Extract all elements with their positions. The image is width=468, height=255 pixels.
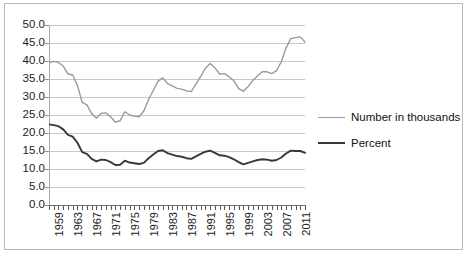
x-tick-mark bbox=[191, 206, 192, 210]
legend-line-swatch bbox=[318, 117, 345, 118]
y-tick-label: 15.0 bbox=[23, 145, 45, 156]
chart-legend: Number in thousandsPercent bbox=[318, 104, 460, 156]
x-tick-mark bbox=[149, 206, 150, 210]
x-tick-mark bbox=[125, 206, 126, 210]
x-tick-mark bbox=[63, 206, 64, 210]
x-tick-mark bbox=[243, 206, 244, 210]
y-tick-label: 20.0 bbox=[23, 127, 45, 138]
x-tick-mark bbox=[277, 206, 278, 210]
x-tick-mark bbox=[101, 206, 102, 210]
x-tick-mark bbox=[139, 206, 140, 210]
x-tick-label: 2011 bbox=[301, 212, 312, 236]
x-tick-mark bbox=[201, 206, 202, 210]
legend-label: Percent bbox=[351, 137, 391, 149]
x-tick-mark bbox=[115, 206, 116, 210]
legend-item[interactable]: Number in thousands bbox=[318, 104, 460, 130]
x-tick-mark bbox=[54, 206, 55, 210]
series-line bbox=[49, 124, 305, 165]
x-tick-mark bbox=[253, 206, 254, 210]
x-tick-mark bbox=[134, 206, 135, 210]
x-tick-mark bbox=[87, 206, 88, 210]
y-axis: 50.045.040.035.030.025.020.015.010.05.00… bbox=[0, 0, 45, 255]
x-tick-label: 1983 bbox=[168, 212, 179, 236]
y-tick-label: 50.0 bbox=[23, 19, 45, 30]
x-tick-mark bbox=[196, 206, 197, 210]
y-tick-label: 5.0 bbox=[29, 181, 45, 192]
legend-line-swatch bbox=[318, 142, 345, 144]
x-tick-label: 1959 bbox=[54, 212, 65, 236]
x-tick-mark bbox=[172, 206, 173, 210]
legend-label: Number in thousands bbox=[351, 111, 460, 123]
x-tick-mark bbox=[168, 206, 169, 210]
x-tick-mark bbox=[111, 206, 112, 210]
x-tick-mark bbox=[106, 206, 107, 210]
x-tick-mark bbox=[158, 206, 159, 210]
x-tick-label: 1991 bbox=[206, 212, 217, 236]
x-tick-mark bbox=[92, 206, 93, 210]
y-tick-label: 45.0 bbox=[23, 37, 45, 48]
x-tick-mark bbox=[144, 206, 145, 210]
x-tick-mark bbox=[163, 206, 164, 210]
x-tick-label: 1999 bbox=[244, 212, 255, 236]
x-tick-mark bbox=[229, 206, 230, 210]
x-tick-mark bbox=[286, 206, 287, 210]
series-line bbox=[49, 37, 305, 122]
x-tick-mark bbox=[82, 206, 83, 210]
x-tick-mark bbox=[296, 206, 297, 210]
x-tick-mark bbox=[224, 206, 225, 210]
y-tick-label: 25.0 bbox=[23, 109, 45, 120]
y-tick-label: 40.0 bbox=[23, 55, 45, 66]
x-tick-mark bbox=[205, 206, 206, 210]
x-tick-mark bbox=[77, 206, 78, 210]
legend-item[interactable]: Percent bbox=[318, 130, 460, 156]
y-tick-label: 0.0 bbox=[29, 199, 45, 210]
x-tick-mark bbox=[153, 206, 154, 210]
x-tick-mark bbox=[258, 206, 259, 210]
x-tick-mark bbox=[68, 206, 69, 210]
x-tick-mark bbox=[58, 206, 59, 210]
x-tick-mark bbox=[210, 206, 211, 210]
x-tick-label: 1963 bbox=[73, 212, 84, 236]
x-tick-mark bbox=[272, 206, 273, 210]
x-tick-label: 1971 bbox=[111, 212, 122, 236]
x-tick-mark bbox=[234, 206, 235, 210]
x-tick-label: 1967 bbox=[92, 212, 103, 236]
x-tick-mark bbox=[291, 206, 292, 210]
y-tick-label: 35.0 bbox=[23, 73, 45, 84]
x-tick-mark bbox=[300, 206, 301, 210]
x-tick-mark bbox=[281, 206, 282, 210]
x-tick-label: 1987 bbox=[187, 212, 198, 236]
x-tick-mark bbox=[220, 206, 221, 210]
x-tick-label: 1995 bbox=[225, 212, 236, 236]
x-tick-label: 2003 bbox=[263, 212, 274, 236]
x-tick-mark bbox=[73, 206, 74, 210]
x-tick-mark bbox=[215, 206, 216, 210]
x-tick-mark bbox=[120, 206, 121, 210]
chart-lines bbox=[49, 25, 306, 206]
x-tick-mark bbox=[177, 206, 178, 210]
x-tick-mark bbox=[248, 206, 249, 210]
y-tick-label: 30.0 bbox=[23, 91, 45, 102]
x-tick-label: 1975 bbox=[130, 212, 141, 236]
x-tick-mark bbox=[239, 206, 240, 210]
x-tick-label: 1979 bbox=[149, 212, 160, 236]
y-tick-label: 10.0 bbox=[23, 163, 45, 174]
x-tick-mark bbox=[96, 206, 97, 210]
x-tick-mark bbox=[267, 206, 268, 210]
x-tick-label: 2007 bbox=[282, 212, 293, 236]
chart-figure: 50.045.040.035.030.025.020.015.010.05.00… bbox=[0, 0, 468, 255]
x-tick-mark bbox=[262, 206, 263, 210]
x-tick-mark bbox=[130, 206, 131, 210]
x-tick-mark bbox=[186, 206, 187, 210]
x-tick-mark bbox=[182, 206, 183, 210]
x-tick-mark bbox=[49, 206, 50, 210]
x-tick-mark bbox=[305, 206, 306, 210]
